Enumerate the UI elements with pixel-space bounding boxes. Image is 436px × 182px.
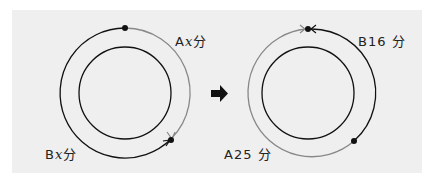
start-point	[122, 25, 128, 31]
runner-name: B	[358, 34, 368, 49]
inner-circle	[79, 47, 171, 139]
right-arrow-icon	[211, 85, 228, 102]
unit: 分	[193, 34, 207, 49]
label-b-left: Bx分	[45, 144, 77, 163]
unit: 分	[392, 34, 406, 49]
unit: 分	[63, 147, 77, 162]
runner-name: A	[224, 147, 234, 162]
label-b-right: B16 分	[358, 31, 406, 50]
time-value: 25	[234, 147, 253, 162]
runner-name: B	[45, 147, 55, 162]
time-value: 16	[368, 34, 387, 49]
inner-circle	[262, 47, 354, 139]
label-a-left: Ax分	[175, 31, 207, 50]
meeting-point	[168, 137, 174, 143]
unit: 分	[258, 147, 272, 162]
runner-name: A	[175, 34, 185, 49]
start-point	[351, 138, 357, 144]
left-diagram	[60, 25, 190, 158]
label-a-right: A25 分	[224, 144, 272, 163]
variable: x	[55, 147, 63, 162]
meeting-point	[305, 26, 311, 32]
variable: x	[185, 34, 193, 49]
right-diagram	[248, 25, 376, 157]
